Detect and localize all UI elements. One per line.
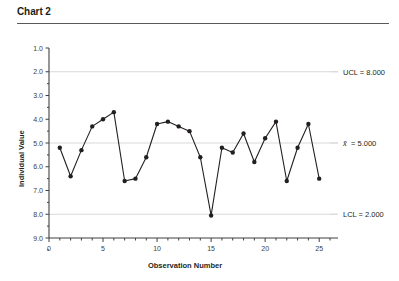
x-axis-title: Observation Number (148, 261, 222, 270)
data-point (274, 119, 278, 123)
data-point (144, 155, 148, 159)
center-line-symbol: x̄ (342, 138, 348, 148)
data-point (306, 122, 310, 126)
data-point (166, 119, 170, 123)
y-tick-label: 7.0 (33, 187, 43, 194)
data-point (317, 176, 321, 180)
data-point (263, 136, 267, 140)
y-axis: 9.08.07.06.05.04.03.02.01.0 (33, 45, 49, 250)
limit-label-text: UCL = 8.000 (343, 68, 385, 77)
reference-gridlines (49, 72, 338, 215)
y-tick-label: 9.0 (33, 235, 43, 242)
series-individual-value (58, 110, 322, 218)
x-tick-label: 0 (47, 245, 51, 252)
data-point (101, 117, 105, 121)
data-point (231, 150, 235, 154)
y-tick-label: 4.0 (33, 116, 43, 123)
control-chart-plot: 9.08.07.06.05.04.03.02.01.0 0510152025 U… (0, 0, 399, 281)
limit-label-text: LCL = 2.000 (343, 210, 384, 219)
x-tick-label: 20 (261, 245, 269, 252)
data-point (79, 148, 83, 152)
y-tick-label: 3.0 (33, 92, 43, 99)
y-axis-title: Individual Value (17, 130, 26, 187)
series-line (60, 112, 319, 215)
data-point (252, 160, 256, 164)
data-point (295, 146, 299, 150)
center-line-label: = 5.000 (351, 139, 376, 148)
data-point (133, 176, 137, 180)
x-axis: 0510152025 (47, 238, 338, 252)
y-tick-label: 6.0 (33, 163, 43, 170)
data-point (68, 174, 72, 178)
y-tick-label: 2.0 (33, 68, 43, 75)
data-point (285, 179, 289, 183)
data-point (198, 155, 202, 159)
x-tick-label: 10 (153, 245, 161, 252)
data-point (241, 131, 245, 135)
data-point (155, 122, 159, 126)
data-point (112, 110, 116, 114)
data-point (122, 179, 126, 183)
data-point (176, 124, 180, 128)
data-point (209, 213, 213, 217)
y-tick-label: 5.0 (33, 140, 43, 147)
chart-card: Chart 2 9.08.07.06.05.04.03.02.01.0 0510… (0, 0, 399, 281)
data-point (90, 124, 94, 128)
data-point (58, 146, 62, 150)
x-tick-label: 15 (207, 245, 215, 252)
data-point (187, 129, 191, 133)
y-tick-label: 8.0 (33, 211, 43, 218)
y-tick-label: 1.0 (33, 45, 43, 52)
data-point (220, 146, 224, 150)
limit-labels: UCL = 8.000x̄= 5.000LCL = 2.000 (330, 68, 385, 220)
x-tick-label: 5 (101, 245, 105, 252)
x-tick-label: 25 (315, 245, 323, 252)
